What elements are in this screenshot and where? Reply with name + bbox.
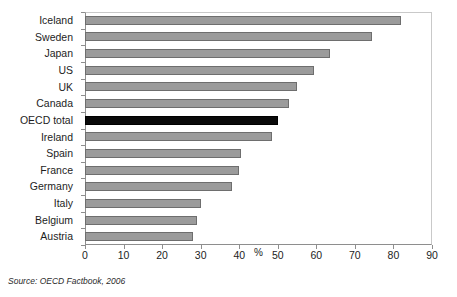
y-axis-label: UK	[0, 79, 79, 96]
bar-row	[85, 129, 432, 146]
bars-container	[85, 12, 432, 245]
bar-row	[85, 29, 432, 46]
x-axis-unit-label: %	[254, 248, 263, 258]
bar	[85, 199, 201, 208]
x-axis-tick-label: 60	[310, 250, 322, 261]
y-axis-tick	[81, 12, 85, 13]
x-axis-tick-labels: 0102030405060708090%	[85, 250, 432, 266]
x-axis-tick-label: 90	[426, 250, 438, 261]
y-axis-label: Germany	[0, 178, 79, 195]
y-axis-label: Belgium	[0, 212, 79, 229]
bar-row	[85, 228, 432, 245]
bar-row	[85, 162, 432, 179]
bar-row	[85, 79, 432, 96]
bar-row	[85, 212, 432, 229]
x-axis-tick-label: 50	[272, 250, 284, 261]
bar	[85, 166, 239, 175]
bar	[85, 49, 330, 58]
y-axis-label: Ireland	[0, 128, 79, 145]
bar-row	[85, 145, 432, 162]
y-axis-label: Austria	[0, 228, 79, 245]
x-axis-tick-label: 0	[82, 250, 88, 261]
x-axis-tick-label: 40	[233, 250, 245, 261]
bar	[85, 149, 241, 158]
bar-row	[85, 12, 432, 29]
y-axis-label: Spain	[0, 145, 79, 162]
bar	[85, 216, 197, 225]
bar	[85, 66, 314, 75]
bar-row	[85, 112, 432, 129]
bar-highlight	[85, 116, 278, 125]
bar	[85, 16, 401, 25]
y-axis-label: Iceland	[0, 12, 79, 29]
y-axis-label: Canada	[0, 95, 79, 112]
x-axis-tick-label: 80	[388, 250, 400, 261]
y-axis-category-labels: IcelandSwedenJapanUSUKCanadaOECD totalIr…	[0, 12, 79, 245]
x-axis-tick-label: 70	[349, 250, 361, 261]
bar	[85, 232, 193, 241]
bar-row	[85, 45, 432, 62]
bar	[85, 132, 272, 141]
y-axis-label: France	[0, 162, 79, 179]
x-axis-tick-label: 20	[156, 250, 168, 261]
y-axis-label: US	[0, 62, 79, 79]
source-note: Source: OECD Factbook, 2006	[8, 277, 125, 286]
bar-row	[85, 178, 432, 195]
bar-row	[85, 95, 432, 112]
y-axis-label: Italy	[0, 195, 79, 212]
bar	[85, 32, 372, 41]
x-axis-tick-label: 10	[118, 250, 130, 261]
bar	[85, 99, 289, 108]
bar	[85, 182, 232, 191]
bar-chart-figure: IcelandSwedenJapanUSUKCanadaOECD totalIr…	[0, 0, 457, 297]
bar-row	[85, 195, 432, 212]
y-axis-label: Sweden	[0, 29, 79, 46]
x-axis-tick-label: 30	[195, 250, 207, 261]
bar	[85, 82, 297, 91]
y-axis-label: Japan	[0, 45, 79, 62]
bar-row	[85, 62, 432, 79]
y-axis-label: OECD total	[0, 112, 79, 129]
